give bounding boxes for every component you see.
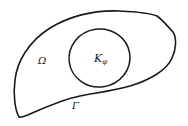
k-phi-label: Kφ: [94, 53, 107, 66]
omega-label: Ω: [38, 56, 46, 66]
gamma-label: Γ: [72, 101, 79, 111]
phi-subscript: φ: [102, 58, 107, 66]
k-label: K: [94, 52, 102, 65]
